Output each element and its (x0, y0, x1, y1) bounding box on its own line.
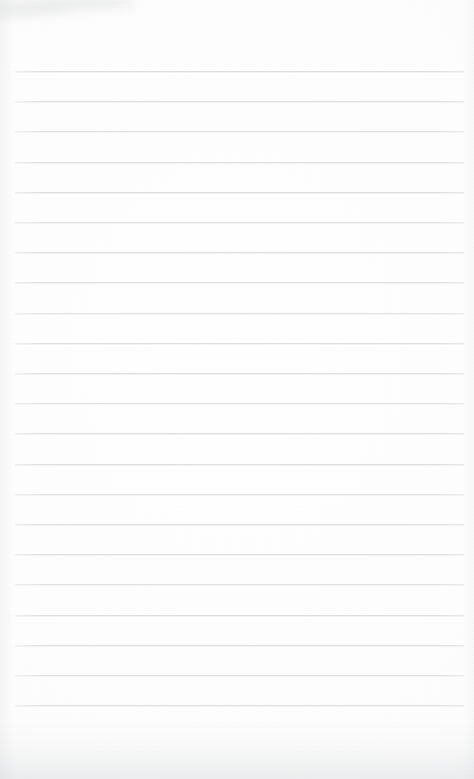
paper-background (0, 0, 474, 779)
scanned-page (0, 0, 474, 779)
